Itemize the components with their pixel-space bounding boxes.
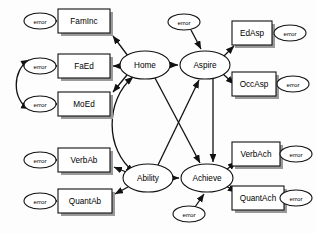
error-label: error [33,18,46,25]
error-faed[interactable]: error [24,58,56,74]
error-label: error [33,101,46,108]
node-verbach[interactable]: VerbAch [232,142,283,169]
node-label-home: Home [134,61,156,70]
edge-disturbance-to-aspire [191,30,201,49]
edge-home-to-faminc [113,36,128,56]
error-label: error [33,63,46,70]
node-moed[interactable]: MoEd [58,92,113,119]
node-label-verbab: VerbAb [71,156,98,165]
error-verbach[interactable]: error [280,146,312,162]
observed-variables: FamInc FaEd MoEd VerbAb QuantAb [58,9,287,216]
node-label-moed: MoEd [73,100,95,109]
node-quantab[interactable]: QuantAb [58,189,115,216]
error-moed[interactable]: error [24,96,56,112]
node-label-faed: FaEd [74,62,94,71]
node-faed[interactable]: FaEd [58,54,113,81]
disturbance-aspire[interactable]: error [168,14,200,30]
node-faminc[interactable]: FamInc [58,9,113,36]
edge-aspire-to-edasp [223,46,234,57]
node-label-aspire: Aspire [193,61,217,70]
node-achieve[interactable]: Achieve [181,164,233,192]
edge-disturbance-to-achieve [195,194,204,207]
node-verbab[interactable]: VerbAb [58,148,113,175]
error-label: error [286,81,299,88]
error-occasp[interactable]: error [277,76,309,92]
error-quantab[interactable]: error [24,193,56,209]
error-label: error [182,211,195,218]
latent-variables: Home Aspire Ability Achieve [120,51,233,192]
error-faminc[interactable]: error [24,13,56,29]
diagram-canvas: FamInc FaEd MoEd VerbAb QuantAb [0,0,316,233]
node-occasp[interactable]: OccAsp [232,72,279,99]
node-quantach[interactable]: QuantAch [232,186,287,213]
error-verbab[interactable]: error [24,152,56,168]
node-label-achieve: Achieve [192,174,222,183]
node-label-quantach: QuantAch [240,194,277,203]
error-edasp[interactable]: error [274,25,306,41]
sem-path-diagram: FamInc FaEd MoEd VerbAb QuantAb [0,0,316,233]
node-label-edasp: EdAsp [240,29,265,38]
node-label-occasp: OccAsp [240,80,269,89]
edge-home-to-moed [113,75,127,92]
error-label: error [289,151,302,158]
edge-cov-home-ability [112,77,134,172]
edge-ability-to-aspire [158,80,199,165]
node-label-verbach: VerbAch [241,150,272,159]
edge-ability-to-quantab [115,187,128,194]
node-ability[interactable]: Ability [123,164,173,192]
node-label-faminc: FamInc [70,17,97,26]
node-home[interactable]: Home [120,51,170,79]
error-label: error [33,157,46,164]
edge-ability-to-verbab [114,167,126,172]
node-edasp[interactable]: EdAsp [232,21,275,48]
disturbance-achieve[interactable]: error [173,206,205,222]
node-aspire[interactable]: Aspire [180,51,230,79]
error-label: error [289,195,302,202]
error-label: error [283,30,296,37]
node-label-quantab: QuantAb [69,197,102,206]
error-label: error [177,19,190,26]
error-label: error [33,198,46,205]
node-label-ability: Ability [137,174,160,183]
error-quantach[interactable]: error [280,190,312,206]
